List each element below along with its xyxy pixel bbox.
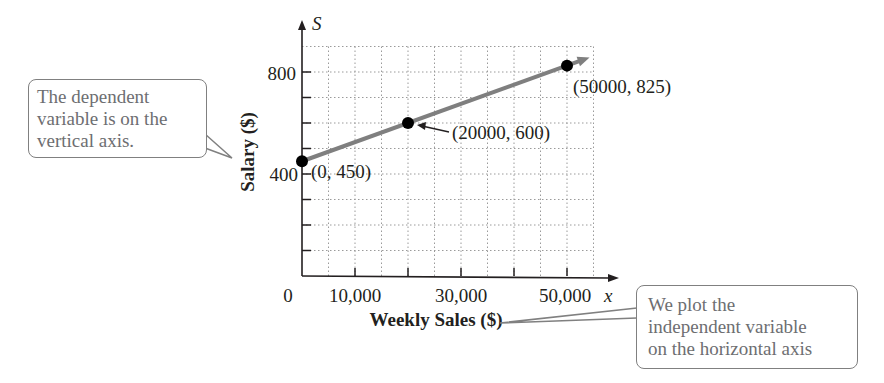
y-axis-arrow-icon — [298, 20, 306, 30]
data-point — [561, 60, 573, 72]
callout-right-line-1: We plot the — [648, 294, 849, 316]
x-tick-label-0: 0 — [283, 285, 293, 306]
callout-dependent-variable: The dependent variable is on the vertica… — [28, 79, 207, 158]
callout-right-tail — [500, 308, 637, 323]
y-tick-label-400: 400 — [270, 164, 299, 185]
data-point — [402, 117, 414, 129]
point-label-2: (50000, 825) — [573, 76, 671, 98]
x-tick-label-50000: 50,000 — [539, 285, 591, 306]
point-label-0: (0, 450) — [311, 161, 371, 183]
y-axis-title: Salary ($) — [237, 112, 259, 192]
callout-right-line-3: on the horizontal axis — [648, 338, 849, 360]
data-series — [296, 57, 590, 167]
callout-left-line-1: The dependent — [37, 86, 198, 108]
x-axis-title: Weekly Sales ($) — [370, 309, 503, 331]
y-tick-label-800: 800 — [268, 63, 297, 84]
y-axis-variable: S — [312, 13, 322, 34]
callout-left-tail — [205, 134, 232, 158]
callout-left-line-3: vertical axis. — [37, 130, 198, 152]
point-label-pointer — [422, 126, 449, 132]
callout-left-line-2: variable is on the — [37, 108, 198, 130]
x-axis-variable: x — [603, 285, 613, 306]
x-tick-label-10000: 10,000 — [329, 285, 381, 306]
x-tick-label-30000: 30,000 — [435, 285, 487, 306]
callout-right-line-2: independent variable — [648, 316, 849, 338]
point-label-1: (20000, 600) — [452, 122, 550, 144]
x-axis-arrow-icon — [608, 274, 619, 282]
line-arrow-icon — [577, 57, 590, 66]
callout-independent-variable: We plot the independent variable on the … — [636, 285, 858, 369]
x-axis — [302, 276, 610, 278]
